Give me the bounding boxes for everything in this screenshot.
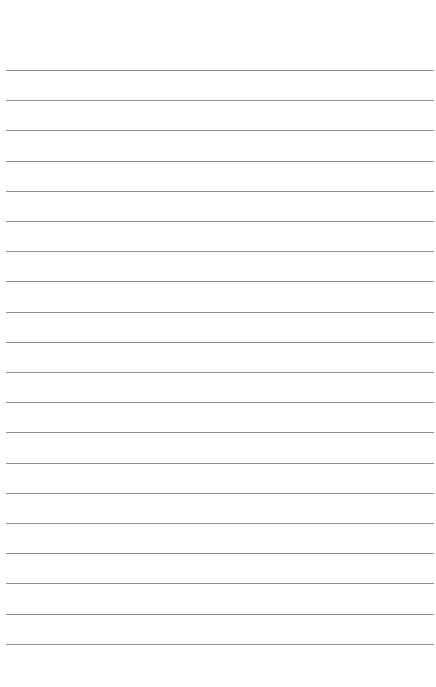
ruled-line — [6, 614, 434, 615]
ruled-line — [6, 583, 434, 584]
ruled-line — [6, 70, 434, 71]
ruled-line — [6, 130, 434, 131]
ruled-line — [6, 161, 434, 162]
ruled-line — [6, 281, 434, 282]
ruled-line — [6, 523, 434, 524]
ruled-line — [6, 221, 434, 222]
ruled-paper-page — [0, 0, 436, 687]
ruled-line — [6, 463, 434, 464]
ruled-line — [6, 493, 434, 494]
ruled-line — [6, 100, 434, 101]
ruled-line — [6, 312, 434, 313]
ruled-line — [6, 251, 434, 252]
ruled-line — [6, 644, 434, 645]
ruled-line — [6, 402, 434, 403]
ruled-line — [6, 191, 434, 192]
ruled-line — [6, 432, 434, 433]
ruled-line — [6, 342, 434, 343]
ruled-line — [6, 372, 434, 373]
ruled-line — [6, 553, 434, 554]
